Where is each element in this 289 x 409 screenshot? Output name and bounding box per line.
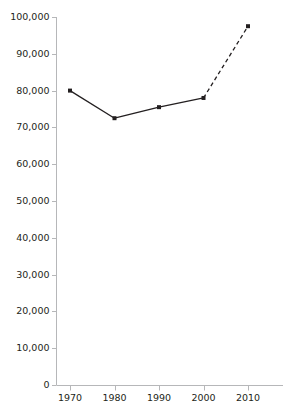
y-axis-tick-label: 60,000 (16, 159, 49, 169)
y-axis-tick-label: 10,000 (16, 343, 49, 353)
y-axis-tick-label: 80,000 (16, 86, 49, 96)
y-axis-ticks (52, 18, 57, 386)
data-line-series (70, 26, 248, 118)
data-line-segment (70, 91, 115, 119)
x-axis-tick-label: 1990 (137, 393, 181, 403)
y-axis-tick-label: 50,000 (16, 196, 49, 206)
y-axis-tick-label: 20,000 (16, 306, 49, 316)
data-point-marker (157, 105, 161, 109)
data-line-segment (115, 107, 160, 118)
x-axis-tick-label: 2010 (226, 393, 270, 403)
y-axis-tick-label: 90,000 (16, 49, 49, 59)
y-axis-tick-label: 40,000 (16, 233, 49, 243)
y-axis-tick-label: 100,000 (10, 12, 49, 22)
y-axis (52, 17, 57, 386)
x-axis-tick-label: 1980 (93, 393, 137, 403)
y-axis-tick-label: 0 (43, 380, 49, 390)
data-point-marker (113, 116, 117, 120)
data-point-marker (246, 24, 250, 28)
y-axis-tick-label: 70,000 (16, 122, 49, 132)
data-point-marker (202, 96, 206, 100)
data-line-segment (159, 98, 204, 107)
x-axis-tick-label: 2000 (182, 393, 226, 403)
data-line-segment-dashed (204, 26, 249, 98)
y-axis-tick-label: 30,000 (16, 270, 49, 280)
line-chart: 010,00020,00030,00040,00050,00060,00070,… (0, 0, 289, 409)
x-axis-ticks (71, 386, 249, 391)
data-point-marker (68, 89, 72, 93)
x-axis (57, 386, 284, 391)
x-axis-tick-label: 1970 (48, 393, 92, 403)
